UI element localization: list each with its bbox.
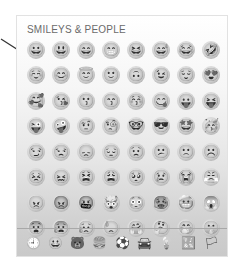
emoji-icon: 🥶 [177,194,195,212]
emoji-cell[interactable]: 😠 [23,190,48,216]
emoji-icon: 😆 [127,41,145,59]
emoji-icon: 😡 [52,194,70,212]
emoji-icon: 🤬 [77,194,95,212]
emoji-icon: 😋 [152,92,170,110]
emoji-cell[interactable]: 😙 [98,88,123,114]
category-bar: 🕘😀🐻🍔⚽🚘💡🔣🏳 [23,232,221,254]
emoji-cell[interactable]: 😤 [198,165,223,191]
emoji-icon: 🥳 [202,117,220,135]
emoji-cell[interactable]: ☺️ [23,63,48,89]
emoji-cell[interactable]: 😱 [198,190,223,216]
emoji-cell[interactable]: 🥶 [173,190,198,216]
emoji-icon: 😍 [202,66,220,84]
emoji-icon: 🤓 [127,117,145,135]
emoji-icon: 😱 [202,194,220,212]
emoji-icon: 🤨 [77,117,95,135]
emoji-cell[interactable]: 😕 [148,139,173,165]
emoji-icon: 😙 [102,92,120,110]
emoji-cell[interactable]: 😘 [48,88,73,114]
category-tab-activity[interactable]: ⚽ [112,233,132,253]
emoji-icon: 🥰 [27,92,45,110]
emoji-cell[interactable]: 😒 [48,139,73,165]
emoji-cell[interactable]: 🤓 [123,114,148,140]
emoji-cell[interactable]: 😇 [73,63,98,89]
emoji-icon: 🤣 [202,41,220,59]
emoji-cell[interactable]: 🥳 [198,114,223,140]
emoji-icon: 😛 [177,92,195,110]
emoji-cell[interactable]: 🤨 [73,114,98,140]
emoji-icon: 🥵 [152,194,170,212]
emoji-icon: 😟 [127,143,145,161]
emoji-grid: 😀😃😄😁😆😅😂🤣☺️😊😇🙂🙃😉😌😍🥰😘😗😙😚😋😛😝😜🤪🤨🧐🤓😎🤩🥳😏😒😞😔😟😕🙁… [23,37,223,241]
emoji-cell[interactable]: 🤬 [73,190,98,216]
emoji-cell[interactable]: 😭 [173,165,198,191]
emoji-cell[interactable]: 😟 [123,139,148,165]
emoji-icon: 😞 [77,143,95,161]
category-tab-flags[interactable]: 🏳 [201,233,221,253]
objects-icon: 💡 [159,236,174,250]
emoji-icon: 🥺 [127,168,145,186]
emoji-cell[interactable]: 🤯 [98,190,123,216]
emoji-cell[interactable]: 😏 [23,139,48,165]
emoji-cell[interactable]: 😢 [148,165,173,191]
emoji-cell[interactable]: 🤣 [198,37,223,63]
emoji-cell[interactable]: 😫 [73,165,98,191]
category-tab-animals-nature[interactable]: 🐻 [68,233,88,253]
category-tab-food-drink[interactable]: 🍔 [90,233,110,253]
emoji-icon: 🤪 [52,117,70,135]
activity-icon: ⚽ [115,236,130,250]
emoji-icon: 😘 [52,92,70,110]
emoji-cell[interactable]: 😋 [148,88,173,114]
recent-icon: 🕘 [26,236,41,250]
category-tab-symbols[interactable]: 🔣 [179,233,199,253]
emoji-cell[interactable]: 🙃 [123,63,148,89]
emoji-cell[interactable]: 😎 [148,114,173,140]
emoji-cell[interactable]: ☹️ [198,139,223,165]
emoji-cell[interactable]: 😳 [123,190,148,216]
emoji-cell[interactable]: 🧐 [98,114,123,140]
emoji-picker-panel: SMILEYS & PEOPLE 😀😃😄😁😆😅😂🤣☺️😊😇🙂🙃😉😌😍🥰😘😗😙😚😋… [16,15,228,257]
emoji-cell[interactable]: 😛 [173,88,198,114]
emoji-icon: 😳 [127,194,145,212]
emoji-cell[interactable]: 🥺 [123,165,148,191]
emoji-cell[interactable]: 😌 [173,63,198,89]
emoji-cell[interactable]: 😩 [98,165,123,191]
emoji-cell[interactable]: 😣 [23,165,48,191]
emoji-cell[interactable]: 🥰 [23,88,48,114]
emoji-cell[interactable]: 😂 [173,37,198,63]
emoji-icon: 😫 [77,168,95,186]
emoji-icon: 😚 [127,92,145,110]
category-tab-recent[interactable]: 🕘 [23,233,43,253]
emoji-cell[interactable]: 😄 [73,37,98,63]
emoji-cell[interactable]: 😚 [123,88,148,114]
emoji-cell[interactable]: 😆 [123,37,148,63]
emoji-cell[interactable]: 😝 [198,88,223,114]
emoji-cell[interactable]: 😊 [48,63,73,89]
flags-icon: 🏳 [204,236,219,250]
emoji-cell[interactable]: 😍 [198,63,223,89]
emoji-cell[interactable]: 😉 [148,63,173,89]
emoji-icon: 😭 [177,168,195,186]
emoji-cell[interactable]: 😃 [48,37,73,63]
category-tab-objects[interactable]: 💡 [157,233,177,253]
emoji-cell[interactable]: 😡 [48,190,73,216]
emoji-icon: 🤯 [102,194,120,212]
emoji-cell[interactable]: 🙁 [173,139,198,165]
emoji-cell[interactable]: 🤪 [48,114,73,140]
emoji-cell[interactable]: 😀 [23,37,48,63]
emoji-cell[interactable]: 😞 [73,139,98,165]
emoji-cell[interactable]: 🥵 [148,190,173,216]
category-tab-travel-places[interactable]: 🚘 [134,233,154,253]
emoji-cell[interactable]: 😔 [98,139,123,165]
smileys-people-icon: 😀 [48,236,63,250]
category-tab-smileys-people[interactable]: 😀 [45,233,65,253]
emoji-cell[interactable]: 😁 [98,37,123,63]
emoji-cell[interactable]: 🙂 [98,63,123,89]
emoji-cell[interactable]: 😖 [48,165,73,191]
emoji-cell[interactable]: 😅 [148,37,173,63]
emoji-cell[interactable]: 😗 [73,88,98,114]
emoji-cell[interactable]: 😜 [23,114,48,140]
emoji-icon: 😖 [52,168,70,186]
divider [17,228,227,229]
emoji-cell[interactable]: 🤩 [173,114,198,140]
